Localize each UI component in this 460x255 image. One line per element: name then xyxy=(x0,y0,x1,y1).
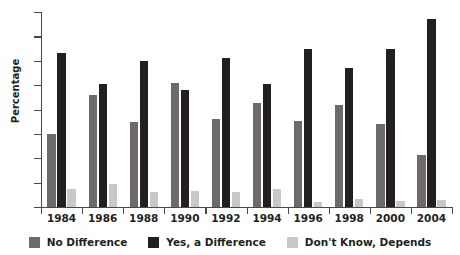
bar xyxy=(304,49,312,207)
bar xyxy=(376,124,384,207)
bar-group xyxy=(130,12,158,207)
bar xyxy=(232,192,240,207)
y-tick-mark xyxy=(34,134,41,135)
bar xyxy=(273,189,281,207)
bar xyxy=(191,191,199,207)
bar xyxy=(437,200,445,207)
bar-group xyxy=(294,12,322,207)
bar xyxy=(263,84,271,207)
bar xyxy=(47,134,55,207)
bar xyxy=(109,184,117,207)
bar-group xyxy=(253,12,281,207)
bar-group xyxy=(212,12,240,207)
bar xyxy=(67,189,75,207)
bar xyxy=(335,105,343,207)
bar-group xyxy=(376,12,404,207)
y-axis-title: Percentage xyxy=(10,41,24,141)
bar xyxy=(355,199,363,208)
y-tick-mark xyxy=(34,110,41,111)
x-tick-label: 1984 xyxy=(41,212,82,224)
bar-group xyxy=(89,12,117,207)
x-tick-label: 1990 xyxy=(164,212,205,224)
x-tick-label: 1998 xyxy=(329,212,370,224)
bar xyxy=(57,53,65,207)
x-tick-label: 2004 xyxy=(411,212,452,224)
y-tick-mark xyxy=(34,36,41,37)
bar xyxy=(150,192,158,207)
bar-chart: Percentage 01020304050607080 19841986198… xyxy=(0,0,460,255)
x-tick-label: 2000 xyxy=(370,212,411,224)
y-tick-mark xyxy=(34,158,41,159)
chart-legend: No DifferenceYes, a DifferenceDon't Know… xyxy=(0,232,460,252)
legend-swatch xyxy=(29,237,40,248)
bar xyxy=(212,119,220,207)
x-tick-label: 1986 xyxy=(82,212,123,224)
x-tick-label: 1988 xyxy=(123,212,164,224)
bar xyxy=(171,83,179,207)
bar xyxy=(396,201,404,207)
bar xyxy=(345,68,353,207)
x-tick-label: 1994 xyxy=(247,212,288,224)
y-tick-mark xyxy=(34,207,41,208)
legend-swatch xyxy=(287,237,298,248)
x-tick-mark xyxy=(452,207,453,214)
y-tick-mark xyxy=(34,183,41,184)
bar xyxy=(181,90,189,207)
bar-group xyxy=(47,12,75,207)
x-tick-label: 1992 xyxy=(205,212,246,224)
bar xyxy=(314,202,322,207)
bar xyxy=(253,103,261,207)
legend-label: Don't Know, Depends xyxy=(305,236,432,248)
legend-label: No Difference xyxy=(47,236,128,248)
legend-item: No Difference xyxy=(29,236,128,248)
y-tick-mark xyxy=(34,61,41,62)
plot-area: 01020304050607080 1984198619881990199219… xyxy=(41,12,452,207)
bar xyxy=(427,19,435,207)
bar-group xyxy=(417,12,445,207)
bar xyxy=(99,84,107,207)
y-tick-mark xyxy=(34,85,41,86)
bar xyxy=(222,58,230,207)
legend-swatch xyxy=(148,237,159,248)
bar xyxy=(89,95,97,207)
x-tick-label: 1996 xyxy=(288,212,329,224)
y-tick-mark xyxy=(34,12,41,13)
y-axis-line xyxy=(41,12,42,207)
bar xyxy=(386,49,394,207)
bar-group xyxy=(171,12,199,207)
legend-label: Yes, a Difference xyxy=(166,236,265,248)
bar xyxy=(294,121,302,208)
bar xyxy=(140,61,148,207)
bar xyxy=(417,155,425,207)
legend-item: Don't Know, Depends xyxy=(287,236,432,248)
bar-group xyxy=(335,12,363,207)
legend-item: Yes, a Difference xyxy=(148,236,265,248)
bar xyxy=(130,122,138,207)
